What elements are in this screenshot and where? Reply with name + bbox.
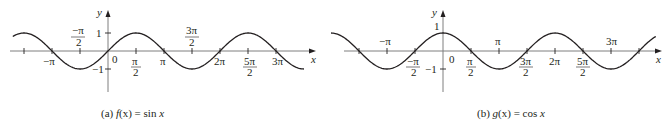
x-label-neg-pi: −π [379, 35, 391, 47]
x-label-pi-half-den: 2 [468, 66, 474, 78]
x-label-neg-pi: −π [43, 55, 55, 67]
origin-label: 0 [449, 53, 455, 65]
x-label-neg-pi-half-den: 2 [76, 36, 82, 48]
y-axis-label: y [96, 6, 102, 18]
x-label-pi: π [495, 35, 501, 47]
x-label-3pi: 3π [272, 55, 284, 67]
x-label-3pi-half-den: 2 [523, 66, 529, 78]
x-axis-label: x [310, 53, 316, 65]
x-label-2pi: 2π [214, 55, 226, 67]
x-label-5pi-half-den: 2 [580, 66, 586, 78]
figure-canvas: y x 0 1 −1 −π −π 2 π 2 π 3π 2 2π 5π 2 3π [0, 0, 668, 129]
x-label-3pi-half-den: 2 [189, 36, 195, 48]
x-label-2pi: 2π [549, 55, 561, 67]
y-axis-arrow-icon [106, 10, 111, 17]
x-label-neg-pi-half-den: 2 [411, 66, 417, 78]
x-label-pi: π [160, 55, 166, 67]
x-label-3pi-half-num: 3π [186, 24, 198, 36]
y-axis-label: y [431, 6, 437, 18]
caption-a: (a) f(x) = sin x [101, 107, 164, 120]
y-label-1: 1 [96, 27, 102, 39]
y-label-neg1: −1 [425, 63, 437, 75]
y-axis-arrow-icon [441, 10, 446, 17]
x-axis-label: x [655, 53, 661, 65]
x-label-3pi: 3π [606, 35, 618, 47]
x-label-5pi-half-den: 2 [247, 66, 253, 78]
y-label-1: 1 [434, 20, 440, 32]
graph-b-cosine: y x 0 1 −1 −π −π 2 π 2 π 3π 2 2π 5π 2 3π [331, 6, 662, 92]
x-label-neg-pi-half-num: −π [72, 24, 84, 36]
caption-b: (b) g(x) = cos x [477, 107, 545, 120]
y-label-neg1: −1 [92, 63, 104, 75]
origin-label: 0 [112, 53, 118, 65]
graph-a-sine: y x 0 1 −1 −π −π 2 π 2 π 3π 2 2π 5π 2 3π [10, 6, 316, 92]
x-label-pi-half-den: 2 [133, 66, 139, 78]
